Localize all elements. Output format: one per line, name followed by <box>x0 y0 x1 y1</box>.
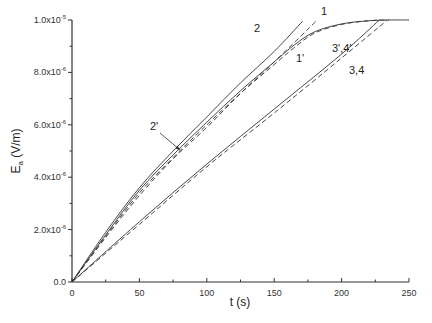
curve-2 <box>72 21 303 282</box>
line-chart: 050100150200250 0.02.0x10-64.0x10-66.0x1… <box>0 0 432 323</box>
y-tick-label: 2.0x10-6 <box>34 224 67 235</box>
curve-label: 2' <box>150 120 158 132</box>
x-tick-label: 0 <box>69 288 74 298</box>
x-tick-label: 250 <box>401 288 416 298</box>
curve-label: 3,4 <box>349 64 364 76</box>
axes <box>72 20 409 282</box>
curves <box>72 20 409 282</box>
y-ticks: 0.02.0x10-64.0x10-66.0x10-68.0x10-61.0x1… <box>34 14 72 287</box>
curve-3-4 <box>72 20 387 282</box>
x-axis-label: t (s) <box>230 295 251 309</box>
y-axis-label-unit: (V/m) <box>9 128 23 161</box>
curve-label: 3',4' <box>332 42 352 54</box>
curve-label: 1 <box>321 5 327 17</box>
y-tick-label: 8.0x10-6 <box>34 66 67 77</box>
x-tick-label: 200 <box>334 288 349 298</box>
y-tick-label: 1.0x10-5 <box>34 14 67 25</box>
curve-label: 2 <box>254 22 260 34</box>
x-tick-label: 150 <box>267 288 282 298</box>
x-tick-label: 100 <box>199 288 214 298</box>
y-axis-label: Ea (V/m) <box>9 128 25 173</box>
y-axis-label-symbol: E <box>9 166 23 174</box>
curve-label: 1' <box>296 52 304 64</box>
y-axis-label-text: Ea (V/m) <box>9 128 25 173</box>
curve-1prime <box>72 20 389 282</box>
curve-2prime <box>72 20 409 282</box>
x-tick-label: 50 <box>134 288 144 298</box>
y-tick-label: 6.0x10-6 <box>34 119 67 130</box>
y-tick-label: 0.0 <box>53 277 66 287</box>
y-tick-label: 4.0x10-6 <box>34 171 67 182</box>
